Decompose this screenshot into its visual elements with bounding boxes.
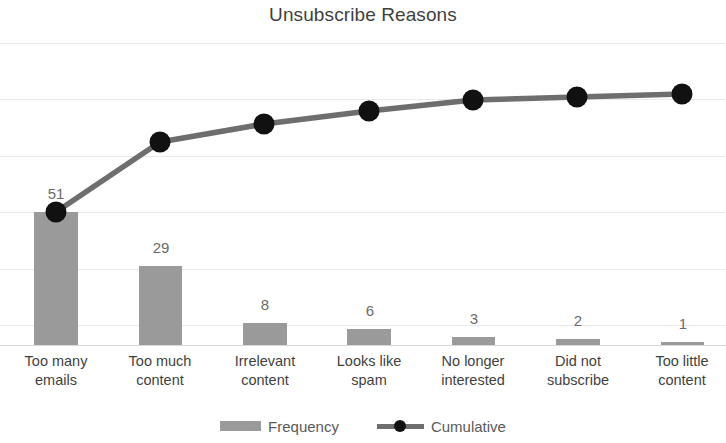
category-label-line: interested [421, 371, 525, 390]
category-label-line: No longer [421, 352, 525, 371]
chart-title: Unsubscribe Reasons [0, 4, 726, 26]
category-axis: Too many emails Too much content Irrelev… [0, 352, 726, 402]
category-label-no-longer-interested: No longer interested [421, 352, 525, 390]
cumulative-marker [463, 90, 484, 111]
category-label-line: Irrelevant [213, 352, 317, 371]
cumulative-line-series [0, 43, 726, 346]
category-label-too-many-emails: Too many emails [4, 352, 108, 390]
category-label-line: content [213, 371, 317, 390]
category-label-line: content [108, 371, 212, 390]
category-label-too-little-content: Too little content [630, 352, 726, 390]
category-label-line: Too many [4, 352, 108, 371]
category-label-looks-like-spam: Looks like spam [317, 352, 421, 390]
category-label-line: Did not [526, 352, 630, 371]
cumulative-marker [150, 132, 171, 153]
legend-entry-cumulative[interactable]: Cumulative [377, 418, 506, 435]
legend-label-frequency: Frequency [268, 418, 339, 435]
cumulative-marker [254, 114, 275, 135]
cumulative-marker [567, 87, 588, 108]
category-label-too-much-content: Too much content [108, 352, 212, 390]
cumulative-marker [46, 202, 67, 223]
category-label-line: subscribe [526, 371, 630, 390]
bar-swatch-icon [220, 421, 261, 431]
line-marker-swatch-icon [377, 420, 424, 432]
legend-entry-frequency[interactable]: Frequency [220, 418, 339, 435]
plot-area: 51 29 8 6 3 2 1 [0, 43, 726, 346]
chart-legend: Frequency Cumulative [0, 412, 726, 440]
category-label-line: Too much [108, 352, 212, 371]
category-label-line: content [630, 371, 726, 390]
category-label-line: emails [4, 371, 108, 390]
pareto-chart: Unsubscribe Reasons 51 29 8 6 3 2 1 [0, 0, 726, 443]
legend-label-cumulative: Cumulative [431, 418, 506, 435]
category-label-did-not-subscribe: Did not subscribe [526, 352, 630, 390]
cumulative-marker [359, 101, 380, 122]
category-label-irrelevant-content: Irrelevant content [213, 352, 317, 390]
cumulative-marker [672, 84, 693, 105]
category-label-line: Too little [630, 352, 726, 371]
category-label-line: spam [317, 371, 421, 390]
category-label-line: Looks like [317, 352, 421, 371]
